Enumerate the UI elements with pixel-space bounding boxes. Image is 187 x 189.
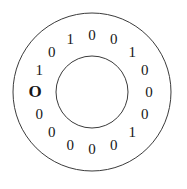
ring-bit-label: 0 <box>81 138 103 160</box>
ring-bit-label: 0 <box>28 103 50 125</box>
bit-label-layer: O101001000100000 <box>0 0 187 189</box>
ring-bit-label: 0 <box>134 59 156 81</box>
ring-bit-label: 1 <box>59 28 81 50</box>
encoder-ring-figure: O101001000100000 <box>0 0 187 189</box>
ring-origin-label: O <box>24 81 46 103</box>
ring-bit-label: 0 <box>138 81 160 103</box>
ring-bit-label: 0 <box>81 24 103 46</box>
ring-bit-label: 0 <box>103 134 125 156</box>
